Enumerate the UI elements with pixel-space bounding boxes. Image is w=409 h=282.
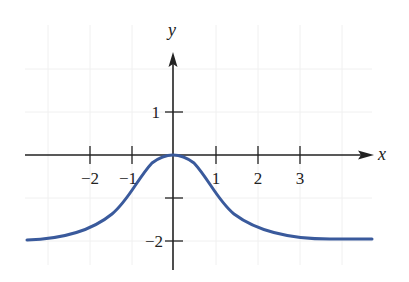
chart: x y −2 −1 1 2 3 1 −2 xyxy=(0,0,409,282)
grid xyxy=(25,25,372,265)
x-axis xyxy=(25,146,374,164)
y-axis-label: y xyxy=(166,20,176,40)
x-tick-label: 2 xyxy=(254,169,263,188)
x-tick-label: 1 xyxy=(212,169,221,188)
y-tick-label: 1 xyxy=(152,103,161,122)
y-tick-label: −2 xyxy=(145,232,163,251)
x-tick-label: −2 xyxy=(81,169,99,188)
x-tick-label: 3 xyxy=(296,169,305,188)
x-axis-label: x xyxy=(377,144,386,164)
y-axis xyxy=(165,52,183,270)
x-tick-label: −1 xyxy=(119,169,137,188)
